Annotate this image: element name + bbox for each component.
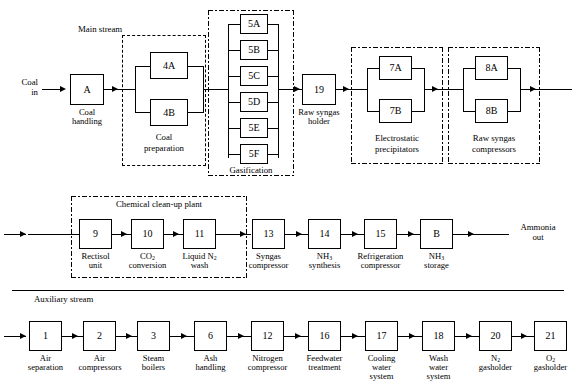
unit-box-21[interactable]: 21 xyxy=(534,321,567,351)
arrow-6-to-12 xyxy=(238,333,244,339)
unit-box-17[interactable]: 17 xyxy=(365,321,398,351)
auxiliary-stream-label: Auxiliary stream xyxy=(34,295,93,305)
unit-box-16[interactable]: 16 xyxy=(308,321,341,351)
connector-rsc-inlet xyxy=(450,89,464,90)
unit-box-15[interactable]: 15 xyxy=(364,219,397,249)
arrow-18-to-20 xyxy=(466,333,472,339)
connector-rsc-outlet xyxy=(520,89,572,90)
unit-box-13[interactable]: 13 xyxy=(252,219,285,249)
connector-prep-to-4A xyxy=(135,66,150,67)
connector-4B-out xyxy=(188,112,204,113)
arrow-13-to-14 xyxy=(296,231,302,237)
unit-box-A[interactable]: A xyxy=(70,74,104,105)
unit-box-12[interactable]: 12 xyxy=(251,321,284,351)
arrow-1-to-2 xyxy=(72,333,78,339)
unit-box-8B[interactable]: 8B xyxy=(475,99,508,123)
unit-label-10-line2: conversion xyxy=(121,261,174,270)
arrow-2-to-3 xyxy=(126,333,132,339)
unit-box-5B[interactable]: 5B xyxy=(240,40,268,60)
connector-to-5D xyxy=(228,102,240,103)
connector-rsc-split xyxy=(463,68,464,112)
connector-to-8B xyxy=(463,111,475,112)
unit-label-18-line3: system xyxy=(414,372,463,381)
arrow-gasification-to-19 xyxy=(294,86,300,92)
unit-box-5E[interactable]: 5E xyxy=(240,118,268,138)
connector-prep-inlet xyxy=(120,89,136,90)
unit-label-14-line2: synthesis xyxy=(298,261,351,270)
group-label-rsc-line2: compressors xyxy=(448,144,540,154)
arrow-10-to-11 xyxy=(173,231,179,237)
connector-4A-out xyxy=(188,66,204,67)
unit-label-B-line2: storage xyxy=(412,261,461,270)
unit-box-5A[interactable]: 5A xyxy=(240,14,268,34)
unit-box-7B[interactable]: 7B xyxy=(379,99,412,123)
connector-B-to-ammonia-out xyxy=(453,234,509,235)
connector-from-5A xyxy=(268,24,279,25)
unit-box-5F[interactable]: 5F xyxy=(240,144,268,164)
connector-prep-to-4B xyxy=(135,112,150,113)
unit-label-1-line2: separation xyxy=(17,363,74,372)
arrow-rsc-out xyxy=(530,86,536,92)
unit-label-6-line2: handling xyxy=(184,363,237,372)
unit-box-10[interactable]: 10 xyxy=(131,219,164,249)
main-stream-label: Main stream xyxy=(78,25,122,35)
unit-box-6[interactable]: 6 xyxy=(194,321,227,351)
group-label-coal-preparation-line1: Coal xyxy=(122,132,206,142)
unit-label-A-line2: handling xyxy=(62,117,112,126)
connector-prep-split xyxy=(135,66,136,113)
unit-box-4B[interactable]: 4B xyxy=(150,99,188,126)
connector-to-5F xyxy=(228,154,240,155)
connector-to-5B xyxy=(228,50,240,51)
arrow-15-to-B xyxy=(408,231,414,237)
unit-box-3[interactable]: 3 xyxy=(137,321,170,351)
unit-box-11[interactable]: 11 xyxy=(183,219,216,249)
unit-box-1[interactable]: 1 xyxy=(29,321,62,351)
group-label-rsc-line1: Raw syngas xyxy=(448,133,540,143)
connector-to-5A xyxy=(228,24,240,25)
unit-box-2[interactable]: 2 xyxy=(83,321,116,351)
arrow-16-to-17 xyxy=(352,333,358,339)
unit-label-15-line2: compressor xyxy=(352,261,409,270)
connector-from-5C xyxy=(268,76,279,77)
arrow-20-to-21 xyxy=(521,333,527,339)
unit-box-B[interactable]: B xyxy=(420,219,453,249)
auxiliary-stream-divider xyxy=(12,290,564,291)
unit-box-5D[interactable]: 5D xyxy=(240,92,268,112)
connector-esp-split xyxy=(367,68,368,112)
arrow-aux-inlet xyxy=(20,333,26,339)
arrow-middle-inlet xyxy=(20,231,26,237)
unit-label-11-line2: wash xyxy=(175,261,224,270)
connector-from-5B xyxy=(268,50,279,51)
arrow-11-to-13 xyxy=(240,231,246,237)
unit-label-12-line2: compressor xyxy=(238,363,297,372)
unit-label-9-line2: unit xyxy=(71,261,120,270)
connector-from-5F xyxy=(268,154,279,155)
arrow-19-to-esp xyxy=(343,86,349,92)
connector-into-cleanup xyxy=(28,234,79,235)
arrow-12-to-16 xyxy=(295,333,301,339)
unit-box-8A[interactable]: 8A xyxy=(475,56,508,80)
arrow-ammonia-out xyxy=(468,231,474,237)
arrow-14-to-15 xyxy=(352,231,358,237)
connector-to-5C xyxy=(228,76,240,77)
unit-box-18[interactable]: 18 xyxy=(422,321,455,351)
group-label-coal-preparation-line2: preparation xyxy=(122,143,206,153)
unit-box-9[interactable]: 9 xyxy=(79,219,112,249)
unit-box-5C[interactable]: 5C xyxy=(240,66,268,86)
arrow-17-to-18 xyxy=(409,333,415,339)
unit-label-13-line2: compressor xyxy=(240,261,297,270)
unit-box-7A[interactable]: 7A xyxy=(379,56,412,80)
unit-box-4A[interactable]: 4A xyxy=(150,52,188,79)
arrow-coal-in xyxy=(60,86,66,92)
connector-gasification-merge xyxy=(278,24,279,158)
connector-to-7B xyxy=(367,111,379,112)
unit-box-20[interactable]: 20 xyxy=(479,321,512,351)
group-label-gasification: Gasification xyxy=(208,165,294,175)
group-label-esp-line1: Electrostatic xyxy=(351,133,443,143)
connector-to-5E xyxy=(228,128,240,129)
unit-box-14[interactable]: 14 xyxy=(308,219,341,249)
unit-label-2-line2: compressors xyxy=(69,363,131,372)
unit-label-16-line2: treatment xyxy=(298,363,351,372)
unit-box-19[interactable]: 19 xyxy=(302,74,336,105)
arrow-A-to-prep xyxy=(112,86,118,92)
